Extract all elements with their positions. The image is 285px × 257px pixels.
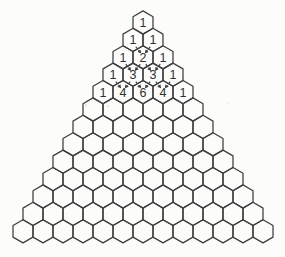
scanned-figure-page: 111121133114641 <box>0 0 285 257</box>
hex-cell-r13-c4 <box>93 220 113 243</box>
hex-cell-r13-c11 <box>233 220 253 243</box>
cell-value-r5-c4: 1 <box>180 86 187 100</box>
hex-cell-r13-c10 <box>213 220 233 243</box>
scan-speckle <box>85 104 87 106</box>
hex-cell-r13-c0 <box>13 220 33 243</box>
hex-cell-r13-c9 <box>193 220 213 243</box>
cell-value-r3-c2: 1 <box>160 51 167 65</box>
pascal-triangle-hexagon-diagram: 111121133114641 <box>0 0 285 257</box>
hex-cell-r13-c12 <box>253 220 273 243</box>
cell-value-r5-c1: 4 <box>120 86 127 100</box>
cell-value-r4-c0: 1 <box>110 68 117 82</box>
scan-speckle <box>227 102 228 103</box>
cell-value-r5-c2: 6 <box>140 86 147 100</box>
hex-cell-r13-c2 <box>53 220 73 243</box>
cell-value-r3-c0: 1 <box>120 51 127 65</box>
cell-value-r5-c0: 1 <box>100 86 107 100</box>
hex-cell-r13-c7 <box>153 220 173 243</box>
scan-speckle <box>61 207 62 208</box>
cell-value-r2-c0: 1 <box>130 33 137 47</box>
cell-value-r4-c1: 3 <box>130 68 137 82</box>
cell-value-r2-c1: 1 <box>150 33 157 47</box>
hex-cell-r13-c3 <box>73 220 93 243</box>
hex-cell-r13-c8 <box>173 220 193 243</box>
cell-value-r1-c0: 1 <box>140 16 147 30</box>
hex-cell-r13-c5 <box>113 220 133 243</box>
hex-cell-r13-c6 <box>133 220 153 243</box>
cell-value-r4-c3: 1 <box>170 68 177 82</box>
cell-value-r3-c1: 2 <box>140 51 147 65</box>
scan-speckle <box>107 105 109 107</box>
cell-value-r4-c2: 3 <box>150 68 157 82</box>
hex-cell-r13-c1 <box>33 220 53 243</box>
cell-value-r5-c3: 4 <box>160 86 167 100</box>
